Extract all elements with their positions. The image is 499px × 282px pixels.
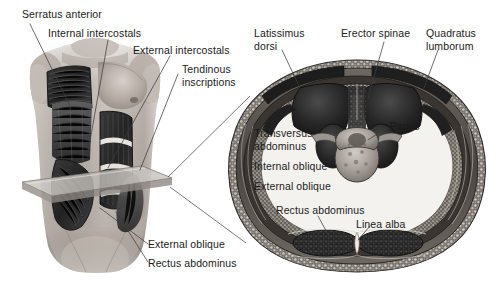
- label-rectus-abdominus-right: Rectus abdominus: [276, 204, 365, 217]
- label-external-oblique-left: External oblique: [148, 238, 225, 251]
- label-serratus-anterior: Serratus anterior: [22, 8, 102, 21]
- label-internal-intercostals: Internal intercostals: [48, 27, 141, 40]
- label-external-intercostals: External intercostals: [133, 44, 230, 57]
- label-psoas: Psoas: [390, 120, 420, 133]
- label-rectus-abdominus-left: Rectus abdominus: [148, 257, 237, 270]
- label-tendinous-inscriptions: Tendinous inscriptions: [182, 63, 236, 88]
- label-linea-alba: Linea alba: [356, 218, 405, 231]
- label-internal-oblique: Internal oblique: [254, 160, 327, 173]
- linea-alba: [355, 232, 360, 254]
- label-latissimus-dorsi: Latissimus dorsi: [254, 27, 305, 52]
- intercostal-muscles: [52, 101, 92, 163]
- label-external-oblique-right: External oblique: [254, 180, 331, 193]
- label-transversus-abdominus: Transversus abdominus: [254, 127, 312, 152]
- anatomy-artwork: [0, 0, 499, 282]
- label-quadratus-lumborum: Quadratus lumborum: [426, 27, 476, 52]
- anatomy-figure: Serratus anterior Internal intercostals …: [0, 0, 499, 282]
- label-erector-spinae: Erector spinae: [341, 27, 410, 40]
